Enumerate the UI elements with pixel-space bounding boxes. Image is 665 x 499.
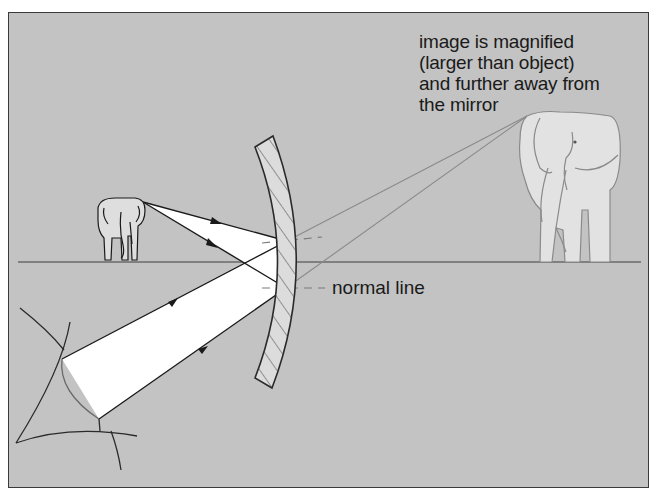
image-elephant: [520, 112, 621, 263]
arrowhead-icon: [210, 217, 222, 224]
caption-line: (larger than object): [419, 52, 600, 73]
caption-line: and further away from: [419, 73, 600, 94]
image-description-caption: image is magnified (larger than object) …: [419, 31, 600, 115]
caption-line: image is magnified: [419, 31, 600, 52]
reflected-beam-lower: [62, 262, 286, 419]
virtual-ray-1: [287, 116, 527, 241]
object-elephant: [98, 198, 145, 260]
caption-line: the mirror: [419, 94, 600, 115]
normal-line-label: normal line: [332, 277, 425, 298]
